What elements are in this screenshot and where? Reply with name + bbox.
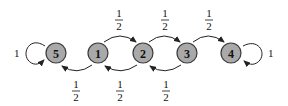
state-node-1: 1 [88,43,108,63]
edge-label-den-3-2: 2 [163,91,169,103]
state-label-2: 2 [140,47,146,61]
edge-arc-2-3 [149,36,180,42]
edge-label-den-1-2: 2 [116,20,122,32]
edge-arc-1-2 [104,36,136,42]
edge-label-den-2-1: 2 [117,91,123,103]
state-label-3: 3 [184,47,190,61]
edge-label-num-3-4: 1 [206,7,212,19]
edge-label-num-2-1: 1 [117,78,123,90]
state-label-5: 5 [53,47,59,61]
self-loop-label-4: 1 [268,47,274,59]
edge-label-num-2-3: 1 [162,7,168,19]
edge-1-to-2: 1 2 [104,7,136,42]
edge-label-num-1-5: 1 [73,78,79,90]
edge-3-to-4: 1 2 [193,7,224,42]
edge-2-to-1: 1 2 [105,65,137,103]
edge-label-den-2-3: 2 [162,20,168,32]
state-node-3: 3 [177,43,197,63]
self-loop-arc-4 [243,44,262,65]
self-loop-4: 1 [243,44,274,65]
edge-arc-3-2 [150,65,181,71]
edge-3-to-2: 1 2 [150,65,181,103]
state-label-1: 1 [95,47,101,61]
state-label-4: 4 [228,47,234,61]
edge-label-den-3-4: 2 [206,20,212,32]
markov-chain-diagram: 1 1 1 2 1 2 1 2 1 2 1 2 1 2 [0,0,288,106]
state-node-4: 4 [221,43,241,63]
self-loop-arc-5 [26,43,45,64]
self-loop-5: 1 [14,43,45,64]
self-loop-label-5: 1 [14,47,20,59]
state-node-2: 2 [133,43,153,63]
edge-2-to-3: 1 2 [149,7,180,42]
state-node-5: 5 [46,43,66,63]
edge-label-num-3-2: 1 [163,78,169,90]
edge-label-num-1-2: 1 [116,7,122,19]
edge-arc-3-4 [193,36,224,42]
edge-label-den-1-5: 2 [73,91,79,103]
edge-arc-2-1 [105,65,137,71]
edge-arc-1-5 [62,65,92,71]
edge-1-to-5: 1 2 [62,65,92,103]
